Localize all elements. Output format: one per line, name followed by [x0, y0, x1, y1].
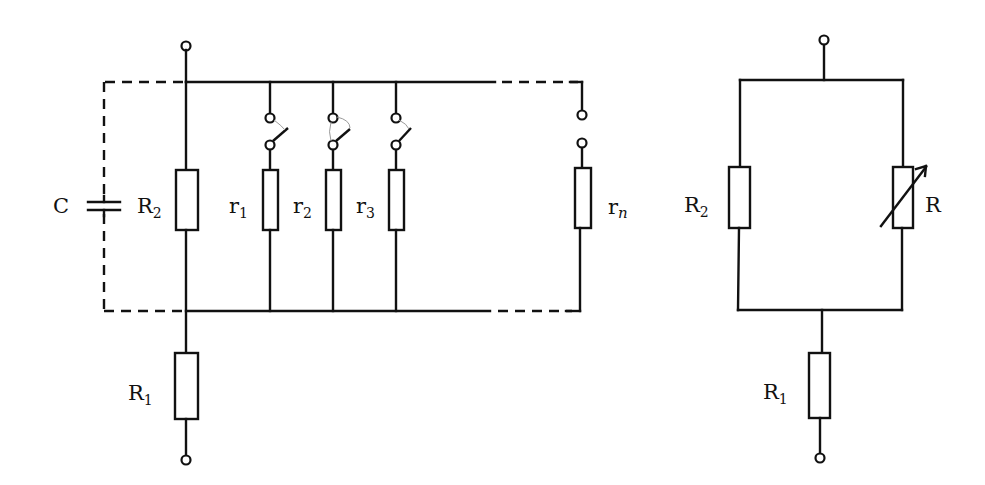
right-bottom-terminal — [816, 454, 825, 463]
r2b-switch-blade-icon — [336, 129, 350, 141]
resistor-r1-branch-icon — [263, 170, 278, 230]
resistor-r3-branch-icon — [389, 170, 404, 230]
right-r2-lower-wire — [738, 228, 739, 310]
left-circuit: C R2 r1 r2 — [53, 42, 628, 465]
right-top-terminal — [820, 36, 829, 45]
right-circuit: R2 R R1 — [684, 36, 942, 463]
right-resistor-r2-label: R2 — [684, 193, 709, 220]
circuit-diagram: C R2 r1 r2 — [0, 0, 985, 485]
capacitor-icon — [88, 196, 120, 216]
r2b-switch-top-contact — [329, 114, 338, 123]
capacitor-label: C — [53, 194, 69, 218]
r3-switch-top-contact — [392, 114, 401, 123]
branch-rn-label: rn — [608, 195, 628, 222]
resistor-r2-label: R2 — [137, 194, 162, 221]
r1-switch-bottom-contact — [266, 141, 275, 150]
branch-r2-label: r2 — [293, 194, 312, 221]
resistor-r2-branch-icon — [326, 170, 341, 230]
variable-resistor-label: R — [925, 193, 942, 217]
resistor-r2-icon — [176, 170, 198, 230]
resistor-r1-label: R1 — [128, 381, 153, 408]
r1-switch-blade-icon — [273, 128, 288, 141]
r1-switch-top-contact — [266, 114, 275, 123]
rn-top-contact — [578, 111, 587, 120]
r2b-switch-bottom-contact — [329, 141, 338, 150]
r3-switch-bottom-contact — [392, 141, 401, 150]
branch-r1-label: r1 — [229, 194, 248, 221]
resistor-rn-branch-icon — [575, 168, 591, 228]
right-resistor-r1-label: R1 — [763, 380, 788, 407]
right-resistor-r1-icon — [809, 353, 830, 418]
resistor-r1-icon — [175, 353, 198, 419]
r3-switch-blade-icon — [399, 128, 411, 141]
branch-r3-label: r3 — [356, 194, 375, 221]
right-resistor-r2-icon — [729, 167, 750, 228]
left-bottom-terminal — [182, 456, 191, 465]
rn-bottom-contact — [578, 139, 587, 148]
